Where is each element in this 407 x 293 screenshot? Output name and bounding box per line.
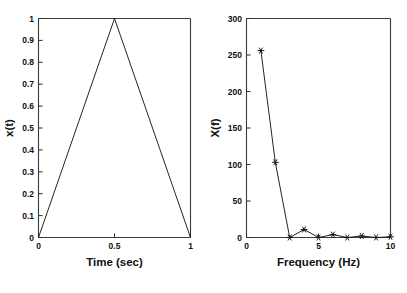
y-ticklabels-left: 0 0.1 0.2 0.3 0.4 0.5 0.6 0.7 0.8 0.9 1 [22,14,34,243]
chart-panel-frequency-domain: 0 50 100 150 200 250 300 0 5 10 Frequenc… [204,0,407,293]
y-tickmarks-left [39,19,43,238]
data-point-marker [373,235,380,241]
time-domain-plot-svg: 0 0.1 0.2 0.3 0.4 0.5 0.6 0.7 0.8 0.9 1 … [0,0,203,293]
x-ticklabel: 0 [36,241,41,251]
chart-panel-time-domain: 0 0.1 0.2 0.3 0.4 0.5 0.6 0.7 0.8 0.9 1 … [0,0,203,293]
y-ticklabel: 0.5 [22,123,34,133]
y-ticklabel: 100 [228,160,242,170]
x-ticklabels-right: 0 5 10 [244,241,395,251]
y-ticklabel: 0.8 [22,57,34,67]
y-axis-label: X(f) [209,118,221,137]
y-ticklabel: 200 [228,87,242,97]
data-point-marker [330,232,337,238]
y-ticklabel: 0.4 [22,145,34,155]
axes-frame-right [247,19,391,238]
y-ticklabel: 250 [228,50,242,60]
y-ticklabel: 0 [29,233,34,243]
data-point-marker [301,227,308,233]
axes-frame-left [39,19,191,238]
y-ticklabels-right: 0 50 100 150 200 250 300 [228,14,242,243]
y-ticklabel: 0.9 [22,35,34,45]
y-ticklabel: 150 [228,123,242,133]
data-series-spectrum [261,51,391,238]
x-ticklabel: 0 [244,241,249,251]
data-markers-spectrum [258,48,394,241]
data-point-marker [358,233,365,239]
y-axis-label: x(t) [3,119,15,137]
x-axis-label: Frequency (Hz) [277,256,360,268]
x-ticklabel: 0.5 [109,241,121,251]
y-ticklabel: 0.6 [22,101,34,111]
x-ticklabel: 1 [188,241,193,251]
y-ticklabel: 300 [228,14,242,24]
x-ticklabels-left: 0 0.5 1 [36,241,193,251]
y-ticklabel: 0.1 [22,211,34,221]
y-ticklabel: 0 [237,233,242,243]
y-tickmarks-right [247,19,251,238]
y-ticklabel: 0.7 [22,79,34,89]
data-series-triangle [39,19,191,238]
x-ticklabel: 5 [316,241,321,251]
x-tickmarks-left [39,234,191,238]
data-point-marker [344,235,351,241]
y-ticklabel: 0.3 [22,167,34,177]
y-ticklabel: 50 [233,196,243,206]
y-ticklabel: 0.2 [22,189,34,199]
x-axis-label: Time (sec) [86,256,143,268]
y-ticklabel: 1 [29,14,34,24]
x-ticklabel: 10 [386,241,396,251]
frequency-domain-plot-svg: 0 50 100 150 200 250 300 0 5 10 Frequenc… [204,0,407,293]
figure-canvas: 0 0.1 0.2 0.3 0.4 0.5 0.6 0.7 0.8 0.9 1 … [0,0,407,293]
